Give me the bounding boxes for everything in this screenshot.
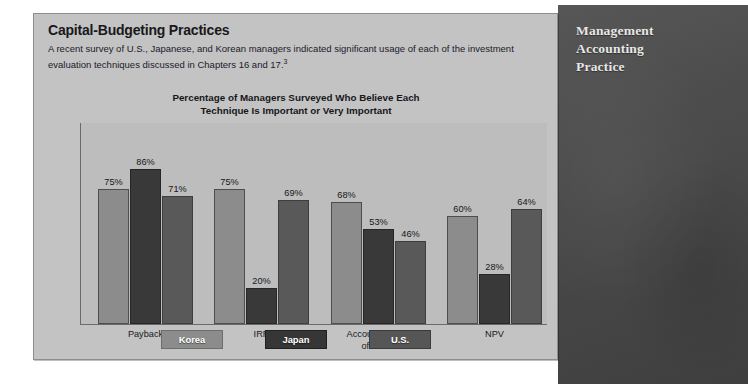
legend-label-japan: Japan xyxy=(282,334,309,345)
bar-holder: 71% xyxy=(162,196,193,324)
bar-holder: 86% xyxy=(130,169,161,324)
bar-rect xyxy=(162,196,193,324)
sidebar-title: Management Accounting Practice xyxy=(576,22,696,75)
legend-item-korea[interactable]: Korea xyxy=(161,330,223,349)
bar-korea-4[interactable]: 60% xyxy=(447,126,478,324)
bar-korea-1[interactable]: 75% xyxy=(98,126,129,324)
bar-korea-3[interactable]: 68% xyxy=(331,126,362,324)
sidebar-title-line-2: Accounting xyxy=(576,40,696,58)
bar-us-2[interactable]: 69% xyxy=(278,126,309,324)
sidebar-top-strip xyxy=(558,0,748,5)
sidebar-title-line-1: Management xyxy=(576,22,696,40)
bar-value-label: 71% xyxy=(168,184,186,194)
bar-rect xyxy=(447,216,478,324)
panel-description: A recent survey of U.S., Japanese, and K… xyxy=(48,42,543,73)
bar-rect xyxy=(130,169,161,324)
bars-row: 60%28%64% xyxy=(447,126,542,324)
bar-rect xyxy=(278,200,309,324)
bar-holder: 28% xyxy=(479,274,510,324)
bar-rect xyxy=(511,209,542,324)
bar-group-payback: 75%86%71% xyxy=(98,126,193,324)
bar-rect xyxy=(479,274,510,324)
chart-legend: Korea Japan U.S. xyxy=(46,330,546,349)
chart-title-line-1: Percentage of Managers Surveyed Who Beli… xyxy=(46,91,546,104)
bar-us-3[interactable]: 46% xyxy=(395,126,426,324)
panel-description-line-1: A recent survey of U.S., Japanese, and K… xyxy=(48,43,514,54)
bar-value-label: 60% xyxy=(453,204,471,214)
legend-item-us[interactable]: U.S. xyxy=(369,330,431,349)
bar-value-label: 28% xyxy=(485,262,503,272)
bar-japan-3[interactable]: 53% xyxy=(363,126,394,324)
bar-value-label: 53% xyxy=(369,217,387,227)
bar-rect xyxy=(98,189,129,324)
bar-value-label: 64% xyxy=(517,197,535,207)
page-title: Capital-Budgeting Practices xyxy=(48,22,543,38)
bar-value-label: 75% xyxy=(220,177,238,187)
bars-row: 75%86%71% xyxy=(98,126,193,324)
bar-korea-2[interactable]: 75% xyxy=(214,126,245,324)
panel-header: Capital-Budgeting Practices A recent sur… xyxy=(48,22,543,73)
bar-holder: 75% xyxy=(214,189,245,324)
bar-value-label: 68% xyxy=(337,190,355,200)
bar-holder: 68% xyxy=(331,202,362,324)
bar-rect xyxy=(246,288,277,324)
bar-us-4[interactable]: 64% xyxy=(511,126,542,324)
bar-us-1[interactable]: 71% xyxy=(162,126,193,324)
bar-value-label: 69% xyxy=(284,188,302,198)
bar-rect xyxy=(331,202,362,324)
x-axis-baseline xyxy=(81,324,547,325)
legend-label-us: U.S. xyxy=(391,334,409,345)
bar-holder: 75% xyxy=(98,189,129,324)
bar-holder: 64% xyxy=(511,209,542,324)
capital-budgeting-panel: Capital-Budgeting Practices A recent sur… xyxy=(33,13,558,360)
bars-row: 68%53%46% xyxy=(331,126,426,324)
legend-item-japan[interactable]: Japan xyxy=(265,330,327,349)
map-sidebar: Management Accounting Practice M.A.P. xyxy=(558,0,748,384)
bar-rect xyxy=(395,241,426,324)
legend-label-korea: Korea xyxy=(179,334,206,345)
bar-holder: 20% xyxy=(246,288,277,324)
bar-value-label: 75% xyxy=(104,177,122,187)
chart-title: Percentage of Managers Surveyed Who Beli… xyxy=(46,91,546,117)
bars-row: 75%20%69% xyxy=(214,126,309,324)
bar-holder: 53% xyxy=(363,229,394,324)
bar-group-irr: 75%20%69% xyxy=(214,126,309,324)
bar-value-label: 46% xyxy=(401,229,419,239)
footnote-marker: 3 xyxy=(284,58,288,65)
bar-group-npv: 60%28%64% xyxy=(447,126,542,324)
bar-japan-2[interactable]: 20% xyxy=(246,126,277,324)
panel-description-line-2: evaluation techniques discussed in Chapt… xyxy=(48,59,284,70)
bar-value-label: 86% xyxy=(136,157,154,167)
bar-japan-4[interactable]: 28% xyxy=(479,126,510,324)
bar-holder: 46% xyxy=(395,241,426,324)
bar-chart: Percentage of Managers Surveyed Who Beli… xyxy=(46,91,546,336)
bar-holder: 60% xyxy=(447,216,478,324)
bar-holder: 69% xyxy=(278,200,309,324)
bar-rect xyxy=(363,229,394,324)
bar-rect xyxy=(214,189,245,324)
bar-group-accounting-rate-of-return: 68%53%46% xyxy=(331,126,426,324)
chart-title-line-2: Technique Is Important or Very Important xyxy=(46,104,546,117)
sidebar-title-line-3: Practice xyxy=(576,58,696,76)
plot-area: 75%86%71%Payback75%20%69%IRR68%53%46%Acc… xyxy=(80,123,547,325)
bar-value-label: 20% xyxy=(252,276,270,286)
bar-japan-1[interactable]: 86% xyxy=(130,126,161,324)
